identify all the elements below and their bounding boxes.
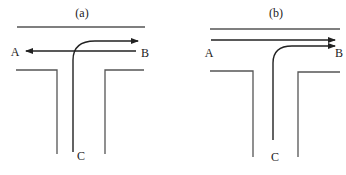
panel-b: (b) A B C — [205, 6, 343, 164]
label-c: C — [271, 150, 279, 164]
road-right-corner — [298, 72, 340, 157]
label-c: C — [77, 149, 85, 163]
panel-b-title: (b) — [269, 6, 283, 20]
road-left-corner — [210, 71, 253, 157]
panel-a-title: (a) — [75, 6, 88, 20]
label-b: B — [335, 46, 343, 60]
label-a: A — [205, 46, 214, 60]
label-b: B — [141, 46, 149, 60]
panel-a: (a) A B C — [11, 6, 149, 163]
road-left-corner — [16, 70, 57, 154]
road-right-corner — [105, 70, 144, 154]
t-junction-diagram: (a) A B C (b) A B C — [0, 0, 346, 175]
flow-c-to-b-arrow — [273, 46, 335, 140]
label-a: A — [11, 45, 20, 59]
